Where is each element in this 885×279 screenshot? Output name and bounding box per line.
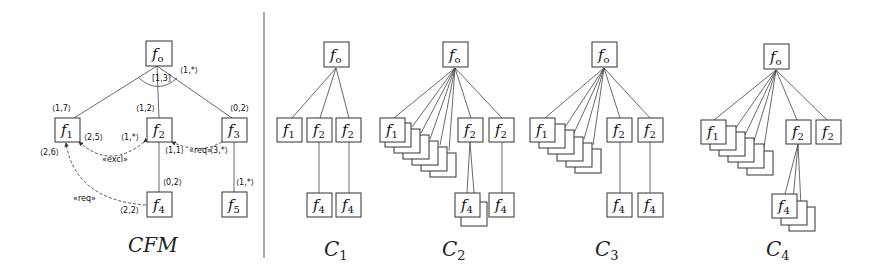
req2-to-card: ⟨2,6⟩ <box>40 148 59 157</box>
cfm-node-f2: f2 <box>147 118 172 142</box>
svg-text:C3: C3 <box>595 237 619 263</box>
svg-text:C2: C2 <box>442 237 466 263</box>
req1-from-card: ⟨3,*⟩ <box>210 146 228 155</box>
config-c4: fo f1 f2 f2 f4 C4 <box>701 44 841 263</box>
excl-constraint <box>79 142 144 156</box>
config-c2: fo f1 f2 f2 f4 f4 C2 <box>380 42 514 263</box>
req1-label: «req» <box>189 146 212 155</box>
req2-from-card: ⟨2,2⟩ <box>120 206 139 215</box>
config-c3: fo f1 f2 f2 f4 f4 C3 <box>530 42 663 263</box>
f5-cardinality: ⟨1,*⟩ <box>236 178 254 187</box>
f2-cardinality: ⟨1,2⟩ <box>136 104 155 113</box>
f4-cardinality: ⟨0,2⟩ <box>163 178 182 187</box>
diagram-canvas: fo [1,3] ⟨1,*⟩ f1 ⟨1,7⟩ f2 ⟨1,2⟩ f3 ⟨0,2… <box>0 0 885 279</box>
cfm-node-f4: f4 <box>147 192 172 217</box>
excl-to-card: ⟨1,*⟩ <box>121 133 139 142</box>
req1-to-card: ⟨1,1⟩ <box>165 146 184 155</box>
svg-text:C1: C1 <box>324 237 348 263</box>
cfm-title: CFM <box>128 233 178 257</box>
config-c1: fo f1 f2 f2 f4 f4 C1 <box>277 42 361 263</box>
cfm-node-f1: f1 <box>55 118 80 142</box>
excl-from-card: ⟨2,5⟩ <box>84 133 103 142</box>
f3-cardinality: ⟨0,2⟩ <box>230 104 249 113</box>
cfm-diagram: fo [1,3] ⟨1,*⟩ f1 ⟨1,7⟩ f2 ⟨1,2⟩ f3 ⟨0,2… <box>40 41 254 257</box>
group-cardinality: [1,3] <box>152 74 171 83</box>
req2-label: «req» <box>73 194 96 203</box>
cfm-node-fo: fo <box>146 41 172 66</box>
excl-label: «excl» <box>102 155 128 164</box>
root-cardinality: ⟨1,*⟩ <box>180 66 198 75</box>
f1-cardinality: ⟨1,7⟩ <box>52 104 71 113</box>
cfm-node-f5: f5 <box>222 192 247 217</box>
svg-text:C4: C4 <box>766 237 790 263</box>
cfm-node-f3: f3 <box>222 118 247 142</box>
